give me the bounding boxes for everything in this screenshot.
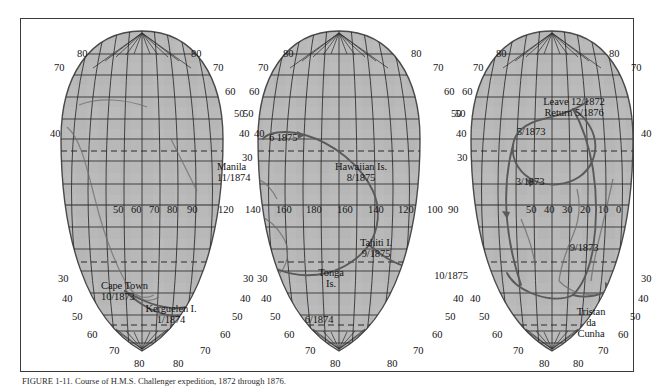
annotation-may-1873: 5/1873 <box>517 127 546 138</box>
lon-label-140-6: 140 <box>245 205 261 216</box>
annotation-kerguelen-i-line-1: 1/1874 <box>145 315 196 326</box>
annotation-june-1875: 6 1875 <box>269 133 297 144</box>
lat-label-80-0: 80 <box>191 49 202 60</box>
lat-label-70-7: 70 <box>598 346 609 357</box>
lat-label-60-2: 60 <box>225 87 236 98</box>
lat-label-60-6: 60 <box>492 330 503 341</box>
annotation-hawaiian-is-line-1: 8/1875 <box>335 173 387 184</box>
annotation-cape-town: Cape Town10/1873 <box>101 281 148 303</box>
lat-label-40-6: 40 <box>261 294 272 305</box>
annotation-tonga-is-line-1: Is. <box>318 279 344 290</box>
lat-label-70-10: 70 <box>200 346 211 357</box>
lat-label-80-11: 80 <box>173 359 184 370</box>
lat-label-60-2: 60 <box>462 87 473 98</box>
lat-label-50-7: 50 <box>270 312 281 323</box>
lat-label-60-8: 60 <box>432 330 443 341</box>
lon-label-0-19: 0 <box>616 205 621 216</box>
lon-label-70-2: 70 <box>149 205 160 216</box>
lat-label-80-8: 80 <box>539 359 550 370</box>
lat-label-50-7: 50 <box>445 312 456 323</box>
lon-label-40-15: 40 <box>544 205 555 216</box>
lat-label-80-0: 80 <box>609 49 620 60</box>
lon-label-50-14: 50 <box>526 205 537 216</box>
lat-label-60-2: 60 <box>444 87 455 98</box>
lat-label-30-6: 30 <box>243 274 254 285</box>
lat-label-80-0: 80 <box>77 49 88 60</box>
lon-label-60-1: 60 <box>131 205 142 216</box>
lat-label-50-5: 50 <box>630 312 641 323</box>
annotation-kerguelen-i: Kerguelen I.1/1874 <box>145 304 196 326</box>
annotation-june-1874: 6/1874 <box>305 315 334 326</box>
lat-label-70-7: 70 <box>513 346 524 357</box>
lat-label-40-4: 40 <box>254 129 265 140</box>
lat-label-60-2: 60 <box>249 87 260 98</box>
lat-label-60-6: 60 <box>87 330 98 341</box>
annotation-oct-1875-line-0: 10/1875 <box>434 271 468 282</box>
lon-label-90-4: 90 <box>187 205 198 216</box>
lat-label-30-5: 30 <box>257 274 268 285</box>
annotation-june-1875-line-0: 6 1875 <box>269 133 297 144</box>
lat-label-80-10: 80 <box>330 359 341 370</box>
lon-label-140-10: 140 <box>368 205 384 216</box>
lat-label-40-6: 40 <box>453 294 464 305</box>
annotation-manila-line-1: 11/1874 <box>217 173 250 184</box>
lat-label-40-2: 40 <box>641 129 652 140</box>
lat-label-70-1: 70 <box>631 63 642 74</box>
annotation-leave-return-line-1: Return 5/1876 <box>543 108 604 119</box>
annotation-tahiti-i-line-1: 9/1875 <box>360 249 392 260</box>
lon-label-90-13: 90 <box>448 205 459 216</box>
lat-label-80-10: 80 <box>387 359 398 370</box>
lat-label-40-4: 40 <box>62 294 73 305</box>
lat-label-80-0: 80 <box>496 49 507 60</box>
lat-label-70-1: 70 <box>473 63 484 74</box>
annotation-oct-1875: 10/1875 <box>434 271 468 282</box>
annotation-sep-1873-line-0: 9/1873 <box>570 243 599 254</box>
lat-label-80-8: 80 <box>134 359 145 370</box>
annotation-sep-1873: 9/1873 <box>570 243 599 254</box>
lon-label-30-16: 30 <box>562 205 573 216</box>
lat-label-70-1: 70 <box>213 63 224 74</box>
figure-caption: FIGURE 1-11. Course of H.M.S. Challenger… <box>22 376 652 388</box>
lon-label-100-12: 100 <box>427 205 443 216</box>
map-lobe-right <box>453 27 635 359</box>
lat-label-40-7: 40 <box>240 294 251 305</box>
lon-label-80-3: 80 <box>167 205 178 216</box>
lon-label-10-18: 10 <box>598 205 609 216</box>
lat-label-70-9: 70 <box>413 346 424 357</box>
lat-label-30-3: 30 <box>58 274 69 285</box>
annotation-may-1873-line-0: 5/1873 <box>517 127 546 138</box>
annotation-tristan-da-cunha-line-2: Cunha <box>577 329 606 340</box>
lat-label-30-3: 30 <box>641 274 652 285</box>
lon-label-120-5: 120 <box>218 205 234 216</box>
lat-label-50-3: 50 <box>455 109 466 120</box>
annotation-hawaiian-is: Hawaiian Is.8/1875 <box>335 162 387 184</box>
lat-label-40-4: 40 <box>470 294 481 305</box>
lat-label-60-6: 60 <box>618 330 629 341</box>
lon-label-50-0: 50 <box>113 205 124 216</box>
annotation-manila: Manila11/1874 <box>217 162 250 184</box>
map-lobe-middle <box>240 27 438 359</box>
lat-label-70-7: 70 <box>109 346 120 357</box>
figure-frame: 807040304050607080 807060504030304050607… <box>20 18 634 372</box>
annotation-june-1874-line-0: 6/1874 <box>305 315 334 326</box>
lat-label-70-9: 70 <box>305 346 316 357</box>
lat-label-30-5: 30 <box>457 153 468 164</box>
annotation-mar-1873: 3/1873 <box>516 177 545 188</box>
lat-label-80-8: 80 <box>573 359 584 370</box>
lat-label-40-4: 40 <box>239 129 250 140</box>
lat-label-60-8: 60 <box>284 330 295 341</box>
annotation-tristan-da-cunha: TristandaCunha <box>577 307 606 340</box>
lat-label-50-5: 50 <box>72 312 83 323</box>
lat-label-40-4: 40 <box>456 129 467 140</box>
lon-label-160-7: 160 <box>276 205 292 216</box>
annotation-tonga-is: TongaIs. <box>318 268 344 290</box>
annotation-cape-town-line-1: 10/1873 <box>101 292 148 303</box>
map-lobe-left <box>43 27 241 359</box>
lat-label-50-3: 50 <box>243 109 254 120</box>
lat-label-70-1: 70 <box>54 63 65 74</box>
lat-label-40-2: 40 <box>50 129 61 140</box>
annotation-mar-1873-line-0: 3/1873 <box>516 177 545 188</box>
annotation-leave-return: Leave 12/1872Return 5/1876 <box>543 97 604 119</box>
lat-label-70-1: 70 <box>258 63 269 74</box>
lat-label-70-1: 70 <box>433 63 444 74</box>
